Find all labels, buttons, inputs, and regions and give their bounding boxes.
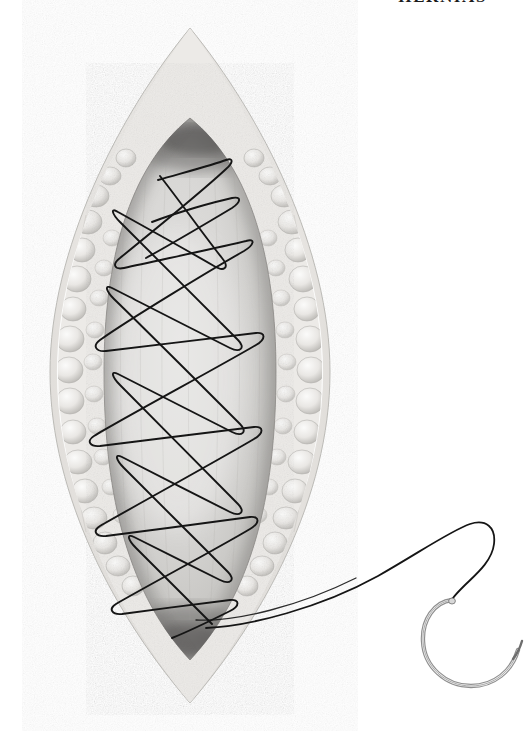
surgical-illustration <box>0 0 531 731</box>
page-canvas: HERNIAS <box>0 0 531 731</box>
needle-swage <box>449 598 456 604</box>
curved-needle <box>423 598 522 686</box>
